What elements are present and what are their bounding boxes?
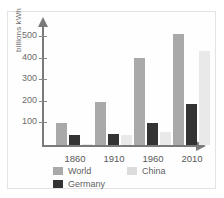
bar-world[interactable]: [95, 102, 106, 145]
y-tick-0: 100: [42, 122, 50, 123]
legend-item-china[interactable]: China: [127, 166, 166, 176]
bar-group: [56, 123, 93, 145]
x-axis-line: [42, 145, 198, 147]
y-tick-2: 300: [42, 79, 50, 80]
bar-china[interactable]: [82, 144, 93, 146]
legend-row-1: World China: [53, 164, 203, 177]
legend-label-china: China: [142, 166, 166, 176]
y-tick-label: 100: [22, 116, 37, 127]
bar-group: [173, 34, 210, 145]
bar-group: [95, 102, 132, 145]
legend-item-germany[interactable]: Germany: [53, 179, 127, 189]
bar-germany[interactable]: [69, 135, 80, 145]
bar-world[interactable]: [56, 123, 67, 145]
y-tick-label: 300: [22, 73, 37, 84]
bar-china[interactable]: [160, 132, 171, 145]
bar-china[interactable]: [199, 51, 210, 145]
legend-row-2: Germany: [53, 177, 203, 190]
x-tick-label-1960: 1960: [133, 153, 173, 164]
x-tick-label-2010: 2010: [172, 153, 212, 164]
x-tick-label-1910: 1910: [94, 153, 134, 164]
y-tick-label: 500: [22, 30, 37, 41]
y-tick-label: 200: [22, 95, 37, 106]
legend-swatch-germany-icon: [53, 180, 63, 188]
bar-group: [134, 58, 171, 146]
bar-germany[interactable]: [147, 123, 158, 145]
plot-area: 100 200 300 400 500: [42, 22, 204, 147]
legend-swatch-china-icon: [127, 167, 137, 175]
bar-world[interactable]: [134, 58, 145, 146]
chart-figure: billions kWh 100 200 300 400 500: [0, 0, 224, 198]
y-axis-arrow-icon: [38, 17, 48, 27]
legend-label-germany: Germany: [68, 179, 105, 189]
y-tick-3: 400: [42, 58, 50, 59]
legend-swatch-world-icon: [53, 167, 63, 175]
bar-china[interactable]: [121, 135, 132, 145]
legend-item-world[interactable]: World: [53, 166, 127, 176]
y-tick-1: 200: [42, 101, 50, 102]
bar-germany[interactable]: [108, 134, 119, 145]
y-tick-4: 500: [42, 36, 50, 37]
y-axis-line: [42, 26, 44, 147]
legend-label-world: World: [68, 166, 91, 176]
chart-legend: World China Germany: [53, 164, 203, 190]
bar-world[interactable]: [173, 34, 184, 145]
x-tick-label-1860: 1860: [55, 153, 95, 164]
y-tick-label: 400: [22, 52, 37, 63]
bar-germany[interactable]: [186, 104, 197, 145]
